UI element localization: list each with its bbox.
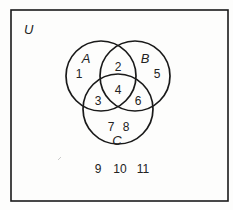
universe-label: U [24,22,34,37]
element-7: 7 [108,120,115,134]
venn-diagram-canvas: U ABC 1254367891011 [0,0,233,210]
element-4: 4 [115,83,122,97]
set-label-a: A [81,51,91,66]
set-label-b: B [141,51,150,66]
element-9: 9 [95,162,102,176]
element-8: 8 [123,120,130,134]
element-2: 2 [115,60,122,74]
element-5: 5 [154,67,161,81]
element-11: 11 [137,162,150,176]
element-10: 10 [113,162,127,176]
set-label-c: C [112,133,122,148]
element-3: 3 [95,94,102,108]
scan-artifact-mark [58,157,61,160]
venn-diagram: U ABC 1254367891011 [0,0,233,210]
element-6: 6 [135,94,142,108]
element-1: 1 [76,67,83,81]
set-elements: 1254367891011 [76,60,161,176]
